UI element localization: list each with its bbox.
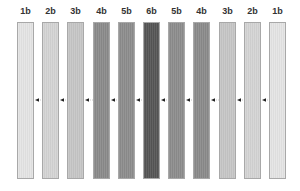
gradient-bar — [219, 22, 236, 179]
bar-label: 6b — [142, 6, 162, 16]
gradient-bar — [42, 22, 59, 179]
gradient-bar — [143, 22, 160, 179]
bar-label: 5b — [117, 6, 137, 16]
bar-label: 4b — [192, 6, 212, 16]
bar-label: 3b — [218, 6, 238, 16]
gradient-bar — [17, 22, 34, 179]
bar-label: 2b — [243, 6, 263, 16]
gradient-bar — [118, 22, 135, 179]
bar-label: 5b — [167, 6, 187, 16]
gradient-bar — [193, 22, 210, 179]
gradient-bar — [168, 22, 185, 179]
gradient-bar — [67, 22, 84, 179]
bar-label: 1b — [16, 6, 36, 16]
gradient-bar — [269, 22, 286, 179]
bar-label: 2b — [41, 6, 61, 16]
bar-label: 4b — [92, 6, 112, 16]
bar-label: 1b — [268, 6, 288, 16]
gradient-bar — [93, 22, 110, 179]
bar-label: 3b — [66, 6, 86, 16]
gradient-bar — [244, 22, 261, 179]
